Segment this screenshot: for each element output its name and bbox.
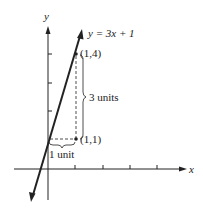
graph-line (33, 36, 80, 195)
point-lower (74, 137, 78, 141)
equation-label: y = 3x + 1 (88, 28, 135, 39)
point-lower-label: (1,1) (80, 134, 101, 145)
x-ticks (75, 165, 157, 169)
x-axis-label: x (189, 164, 194, 175)
rise-label: 3 units (89, 92, 119, 103)
line-arrow-up-icon (77, 29, 84, 40)
point-upper-label: (1,4) (80, 48, 101, 59)
line-arrow-down-icon (29, 192, 36, 202)
y-ticks (48, 54, 52, 111)
y-axis-arrow-icon (46, 26, 51, 34)
point-upper (74, 52, 78, 56)
x-axis-arrow-icon (179, 167, 187, 172)
y-axis-label: y (44, 11, 49, 22)
run-label: 1 unit (49, 149, 74, 160)
slope-diagram: y x y = 3x + 1 (1,4) (1,1) 3 units 1 uni… (0, 0, 203, 210)
rise-brace-icon (80, 55, 86, 139)
